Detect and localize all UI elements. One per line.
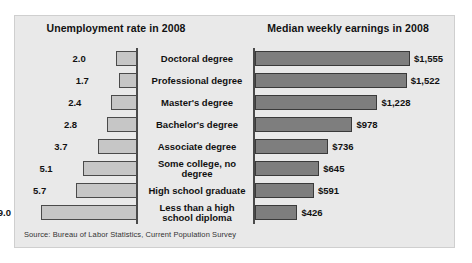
earnings-bar <box>255 117 352 132</box>
unemployment-value-label: 1.7 <box>76 74 89 88</box>
right-panel-header: Median weekly earnings in 2008 <box>243 22 453 34</box>
unemployment-value-label: 3.7 <box>54 140 67 154</box>
earnings-bar <box>255 161 319 176</box>
category-label: Master's degree <box>141 92 253 114</box>
earnings-cell: $1,522 <box>255 70 454 92</box>
unemployment-bar-track <box>41 183 137 198</box>
unemployment-bar-track <box>41 73 137 88</box>
unemployment-cell: 5.1 <box>15 158 137 180</box>
unemployment-bar <box>41 205 137 220</box>
unemployment-value-label: 5.1 <box>39 162 52 176</box>
earnings-value-label: $591 <box>318 184 339 198</box>
earnings-bar-track <box>255 161 454 176</box>
earnings-cell: $736 <box>255 136 454 158</box>
unemployment-value-label: 9.0 <box>0 206 11 220</box>
earnings-cell: $645 <box>255 158 454 180</box>
unemployment-bar-track <box>41 117 137 132</box>
earnings-bar <box>255 183 314 198</box>
earnings-cell: $1,555 <box>255 48 454 70</box>
unemployment-bar-track <box>41 51 137 66</box>
left-axis-line <box>136 48 138 70</box>
chart-row: 2.0Doctoral degree$1,555 <box>15 48 454 70</box>
left-axis-line <box>136 114 138 136</box>
unemployment-cell: 1.7 <box>15 70 137 92</box>
chart-rows: 2.0Doctoral degree$1,5551.7Professional … <box>15 48 454 224</box>
unemployment-bar-track <box>41 95 137 110</box>
unemployment-bar <box>107 117 137 132</box>
unemployment-value-label: 2.0 <box>72 52 85 66</box>
chart-panel: Unemployment rate in 2008 Median weekly … <box>14 15 455 248</box>
left-panel-header: Unemployment rate in 2008 <box>23 22 209 34</box>
earnings-bar-track <box>255 205 454 220</box>
left-axis-line <box>136 92 138 114</box>
category-label: Less than a high school diploma <box>141 202 253 224</box>
category-label: Bachelor's degree <box>141 114 253 136</box>
chart-row: 2.4Master's degree$1,228 <box>15 92 454 114</box>
unemployment-bar <box>111 95 137 110</box>
chart-row: 5.7High school graduate$591 <box>15 180 454 202</box>
earnings-value-label: $1,228 <box>381 96 410 110</box>
earnings-cell: $1,228 <box>255 92 454 114</box>
left-axis-line <box>136 180 138 202</box>
earnings-bar <box>255 95 377 110</box>
unemployment-bar <box>116 51 137 66</box>
unemployment-bar <box>119 73 137 88</box>
earnings-cell: $591 <box>255 180 454 202</box>
unemployment-value-label: 2.8 <box>64 118 77 132</box>
earnings-bar <box>255 73 407 88</box>
earnings-bar <box>255 139 328 154</box>
earnings-bar-track <box>255 117 454 132</box>
unemployment-bar <box>98 139 137 154</box>
unemployment-cell: 3.7 <box>15 136 137 158</box>
earnings-value-label: $645 <box>323 162 344 176</box>
unemployment-bar-track <box>41 161 137 176</box>
category-label: Doctoral degree <box>141 48 253 70</box>
left-axis-line <box>136 158 138 180</box>
chart-row: 9.0Less than a high school diploma$426 <box>15 202 454 224</box>
unemployment-cell: 2.0 <box>15 48 137 70</box>
earnings-bar-track <box>255 95 454 110</box>
unemployment-cell: 9.0 <box>15 202 137 224</box>
chart-row: 1.7Professional degree$1,522 <box>15 70 454 92</box>
category-label: Professional degree <box>141 70 253 92</box>
unemployment-bar <box>76 183 137 198</box>
earnings-bar <box>255 51 410 66</box>
category-label: High school graduate <box>141 180 253 202</box>
earnings-value-label: $426 <box>301 206 322 220</box>
chart-headers: Unemployment rate in 2008 Median weekly … <box>15 22 454 40</box>
unemployment-bar-track <box>41 205 137 220</box>
earnings-value-label: $978 <box>356 118 377 132</box>
unemployment-cell: 2.8 <box>15 114 137 136</box>
unemployment-value-label: 5.7 <box>33 184 46 198</box>
earnings-value-label: $736 <box>332 140 353 154</box>
unemployment-cell: 5.7 <box>15 180 137 202</box>
category-label: Some college, no degree <box>141 158 253 180</box>
category-label: Associate degree <box>141 136 253 158</box>
earnings-bar <box>255 205 297 220</box>
chart-row: 3.7Associate degree$736 <box>15 136 454 158</box>
left-axis-line <box>136 202 138 224</box>
unemployment-cell: 2.4 <box>15 92 137 114</box>
source-note: Source: Bureau of Labor Statistics, Curr… <box>24 230 236 239</box>
unemployment-value-label: 2.4 <box>68 96 81 110</box>
earnings-cell: $426 <box>255 202 454 224</box>
left-axis-line <box>136 136 138 158</box>
earnings-bar-track <box>255 139 454 154</box>
unemployment-bar <box>83 161 137 176</box>
earnings-value-label: $1,522 <box>411 74 440 88</box>
left-axis-line <box>136 70 138 92</box>
chart-row: 5.1Some college, no degree$645 <box>15 158 454 180</box>
earnings-bar-track <box>255 183 454 198</box>
earnings-cell: $978 <box>255 114 454 136</box>
earnings-value-label: $1,555 <box>414 52 443 66</box>
chart-row: 2.8Bachelor's degree$978 <box>15 114 454 136</box>
